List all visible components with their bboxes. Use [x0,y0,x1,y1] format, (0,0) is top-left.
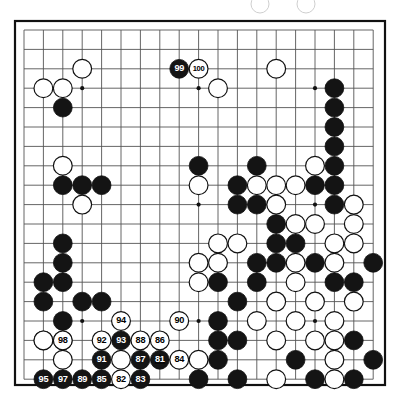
black-stone[interactable] [344,331,363,350]
white-stone[interactable] [53,79,72,98]
white-stone[interactable] [73,59,92,78]
white-stone[interactable] [267,59,286,78]
black-stone[interactable] [325,98,344,117]
black-stone[interactable] [325,176,344,195]
white-stone[interactable] [344,234,363,253]
white-stone[interactable] [170,350,189,369]
black-stone[interactable] [92,176,111,195]
black-stone[interactable] [325,118,344,137]
black-stone[interactable] [228,176,247,195]
black-stone[interactable] [247,253,266,272]
white-stone[interactable] [267,331,286,350]
white-stone[interactable] [53,331,72,350]
white-stone[interactable] [306,292,325,311]
black-stone[interactable] [267,253,286,272]
white-stone[interactable] [306,331,325,350]
white-stone[interactable] [112,312,131,331]
white-stone[interactable] [325,234,344,253]
white-stone[interactable] [325,370,344,389]
black-stone[interactable] [247,273,266,292]
go-board-canvas[interactable] [0,0,401,412]
black-stone[interactable] [209,273,228,292]
white-stone[interactable] [286,176,305,195]
black-stone[interactable] [209,350,228,369]
black-stone[interactable] [325,195,344,214]
black-stone[interactable] [34,370,53,389]
black-stone[interactable] [53,98,72,117]
black-stone[interactable] [150,350,169,369]
white-stone[interactable] [112,350,131,369]
black-stone[interactable] [92,370,111,389]
white-stone[interactable] [209,253,228,272]
white-stone[interactable] [267,195,286,214]
black-stone[interactable] [228,370,247,389]
white-stone[interactable] [34,331,53,350]
white-stone[interactable] [267,292,286,311]
black-stone[interactable] [92,350,111,369]
white-stone[interactable] [53,156,72,175]
black-stone[interactable] [364,253,383,272]
black-stone[interactable] [189,156,208,175]
black-stone[interactable] [286,350,305,369]
black-stone[interactable] [112,331,131,350]
white-stone[interactable] [209,234,228,253]
white-stone[interactable] [247,176,266,195]
black-stone[interactable] [53,234,72,253]
black-stone[interactable] [209,312,228,331]
white-stone[interactable] [92,331,111,350]
white-stone[interactable] [112,370,131,389]
black-stone[interactable] [228,195,247,214]
black-stone[interactable] [306,370,325,389]
white-stone[interactable] [170,312,189,331]
black-stone[interactable] [344,273,363,292]
black-stone[interactable] [131,350,150,369]
black-stone[interactable] [73,176,92,195]
white-stone[interactable] [286,273,305,292]
white-stone[interactable] [306,215,325,234]
go-board[interactable]: 991009490989293888691878184959789858283 [0,0,401,412]
black-stone[interactable] [247,156,266,175]
black-stone[interactable] [73,370,92,389]
white-stone[interactable] [306,156,325,175]
white-stone[interactable] [189,350,208,369]
black-stone[interactable] [267,234,286,253]
black-stone[interactable] [228,292,247,311]
black-stone[interactable] [228,331,247,350]
white-stone[interactable] [150,331,169,350]
black-stone[interactable] [53,273,72,292]
black-stone[interactable] [189,370,208,389]
white-stone[interactable] [34,79,53,98]
white-stone[interactable] [53,350,72,369]
black-stone[interactable] [325,137,344,156]
black-stone[interactable] [53,253,72,272]
black-stone[interactable] [34,273,53,292]
black-stone[interactable] [53,312,72,331]
white-stone[interactable] [267,370,286,389]
white-stone[interactable] [73,195,92,214]
white-stone[interactable] [189,59,208,78]
black-stone[interactable] [73,292,92,311]
black-stone[interactable] [325,79,344,98]
white-stone[interactable] [209,79,228,98]
black-stone[interactable] [170,59,189,78]
white-stone[interactable] [286,253,305,272]
black-stone[interactable] [209,331,228,350]
white-stone[interactable] [189,253,208,272]
white-stone[interactable] [325,253,344,272]
white-stone[interactable] [131,331,150,350]
white-stone[interactable] [344,292,363,311]
black-stone[interactable] [344,370,363,389]
white-stone[interactable] [325,350,344,369]
black-stone[interactable] [306,176,325,195]
white-stone[interactable] [344,215,363,234]
black-stone[interactable] [267,215,286,234]
white-stone[interactable] [344,195,363,214]
black-stone[interactable] [247,195,266,214]
black-stone[interactable] [286,234,305,253]
black-stone[interactable] [364,350,383,369]
black-stone[interactable] [53,176,72,195]
white-stone[interactable] [189,273,208,292]
white-stone[interactable] [286,312,305,331]
black-stone[interactable] [325,273,344,292]
black-stone[interactable] [325,156,344,175]
